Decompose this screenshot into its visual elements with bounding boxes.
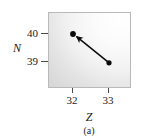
plot-svg	[49, 13, 132, 89]
figure-caption: (a)	[0, 126, 142, 136]
y-axis-title: N	[13, 42, 21, 54]
x-axis-title: Z	[0, 111, 142, 123]
y-tick-40	[41, 33, 48, 34]
plot-area	[48, 12, 131, 88]
x-tick-label-32: 32	[61, 95, 83, 106]
y-tick-39	[41, 61, 48, 62]
y-tick-label-40: 40	[16, 28, 38, 39]
data-point-33-39	[106, 60, 111, 65]
x-tick-33	[108, 88, 109, 93]
decay-arrow	[77, 37, 109, 63]
y-tick-label-39: 39	[16, 56, 38, 67]
figure-panel: 40 39 32 33 N Z (a)	[0, 0, 142, 139]
data-point-32-40	[70, 31, 76, 37]
x-tick-label-33: 33	[97, 95, 119, 106]
x-tick-32	[72, 88, 73, 93]
